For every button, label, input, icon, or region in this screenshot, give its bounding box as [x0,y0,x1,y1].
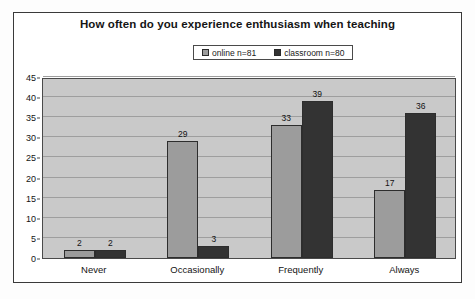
bar-group: 1736 [354,79,458,258]
bar-always-classroom: 36 [405,113,436,258]
y-axis-tick-mark [37,118,40,119]
legend-swatch-online [202,49,209,56]
bar-value-label: 33 [282,113,291,123]
x-axis-tick-label: Never [81,264,106,275]
gridline [43,76,455,77]
legend-label-classroom: classroom n=80 [284,48,344,58]
y-axis-tick-label: 40 [26,93,36,103]
y-axis-tick-mark [37,78,40,79]
bars-layer: 2229333391736 [43,79,455,258]
chart-page: How often do you experience enthusiasm w… [0,0,475,299]
y-axis-tick-mark [37,218,40,219]
bar-value-label: 29 [178,129,187,139]
y-axis: 051015202530354045 [13,78,40,259]
bar-occasionally-classroom: 3 [198,246,229,258]
chart-legend: online n=81 classroom n=80 [193,45,353,60]
y-axis-tick-mark [37,178,40,179]
plot-area: 2229333391736 [42,78,456,259]
bar-value-label: 17 [385,178,394,188]
x-axis-tick-label: Occasionally [170,264,224,275]
y-axis-tick-label: 45 [26,73,36,83]
bar-value-label: 3 [211,234,216,244]
y-axis-tick-label: 20 [26,174,36,184]
bar-value-label: 2 [77,238,82,248]
bar-group: 3339 [250,79,354,258]
y-axis-tick-label: 25 [26,153,36,163]
y-axis-tick-label: 35 [26,113,36,123]
y-axis-tick-mark [37,98,40,99]
bar-value-label: 2 [108,238,113,248]
y-axis-tick-label: 15 [26,194,36,204]
y-axis-tick-mark [37,198,40,199]
y-axis-tick-label: 0 [31,254,36,264]
y-axis-tick-mark [37,158,40,159]
chart-title: How often do you experience enthusiasm w… [13,18,462,30]
x-axis-tick-label: Always [389,264,419,275]
y-axis-tick-label: 5 [31,234,36,244]
y-axis-tick-mark [37,238,40,239]
bar-occasionally-online: 29 [167,141,198,258]
y-axis-tick-mark [37,259,40,260]
bar-group: 293 [147,79,251,258]
bar-value-label: 36 [416,101,425,111]
bar-group: 22 [43,79,147,258]
y-axis-tick-label: 30 [26,133,36,143]
bar-always-online: 17 [374,190,405,258]
bar-frequently-classroom: 39 [302,101,333,258]
y-axis-tick-mark [37,138,40,139]
bar-frequently-online: 33 [271,125,302,258]
y-axis-tick-label: 10 [26,214,36,224]
legend-item-classroom: classroom n=80 [274,48,344,58]
bar-never-classroom: 2 [95,250,126,258]
legend-label-online: online n=81 [212,48,256,58]
bar-value-label: 39 [313,89,322,99]
x-axis: NeverOccasionallyFrequentlyAlways [42,262,456,280]
legend-item-online: online n=81 [202,48,256,58]
bar-never-online: 2 [64,250,95,258]
legend-swatch-classroom [274,49,281,56]
x-axis-tick-label: Frequently [278,264,323,275]
